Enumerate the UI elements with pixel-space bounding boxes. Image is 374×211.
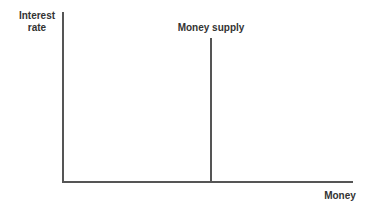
- y-axis-label-line-2: rate: [12, 22, 62, 34]
- y-axis: [62, 12, 64, 183]
- x-axis-label: Money: [318, 190, 362, 202]
- x-axis: [62, 181, 353, 183]
- y-axis-label-line-1: Interest: [12, 10, 62, 22]
- money-supply-label: Money supply: [166, 22, 256, 34]
- y-axis-label: Interest rate: [12, 10, 62, 34]
- money-supply-line: [210, 38, 212, 182]
